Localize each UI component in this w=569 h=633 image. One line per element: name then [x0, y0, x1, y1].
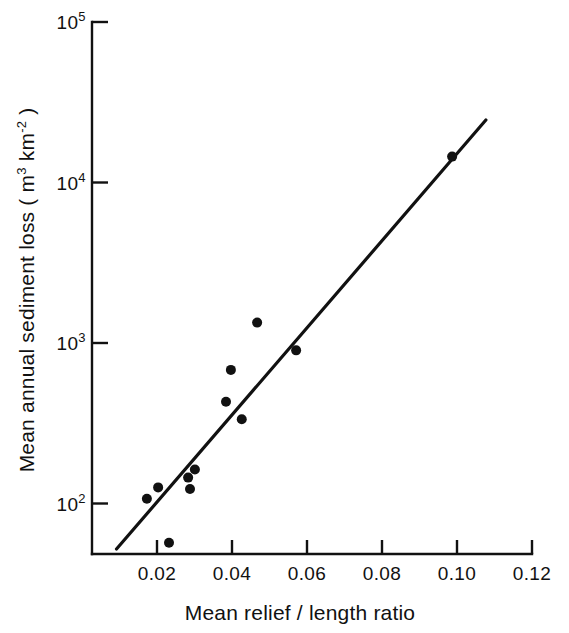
x-tick-label-0-02: 0.02: [138, 563, 177, 584]
data-point: [190, 464, 200, 474]
data-point: [221, 397, 231, 407]
x-axis-title: Mean relief / length ratio: [185, 601, 416, 624]
data-point: [183, 473, 193, 483]
x-tick-label-0-04: 0.04: [213, 563, 252, 584]
plot-background: [0, 0, 569, 633]
x-tick-label-0-08: 0.08: [363, 563, 402, 584]
data-point: [164, 538, 174, 548]
data-point: [226, 365, 236, 375]
data-point: [142, 494, 152, 504]
data-point: [237, 414, 247, 424]
x-tick-label-0-06: 0.06: [288, 563, 327, 584]
x-tick-label-0-12: 0.12: [513, 563, 552, 584]
scatter-plot: 105 104 103 102 0.02 0.04 0.06: [0, 0, 569, 633]
chart-figure: 105 104 103 102 0.02 0.04 0.06: [0, 0, 569, 633]
data-point: [252, 318, 262, 328]
x-tick-label-0-10: 0.10: [438, 563, 477, 584]
data-point: [153, 482, 163, 492]
y-axis-title: Mean annual sediment loss ( m3 km-2 ): [14, 108, 38, 473]
data-point: [447, 152, 457, 162]
data-point: [291, 345, 301, 355]
data-point: [185, 484, 195, 494]
